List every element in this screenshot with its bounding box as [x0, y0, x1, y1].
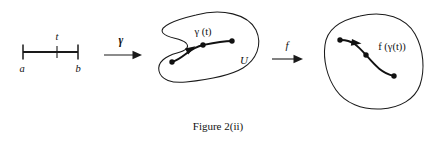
arrow-label-gamma: γ: [119, 34, 124, 47]
image-set-outline: [324, 14, 422, 109]
interval-label-t: t: [56, 31, 60, 42]
f-gamma-point-image: [363, 52, 368, 57]
arrow-head: [133, 51, 143, 60]
gamma-of-t-label: γ (t): [193, 26, 212, 38]
curve-with-arrow-icon-gamma: [169, 38, 234, 64]
f-of-gamma-of-t-label: f (γ(t)): [378, 41, 406, 53]
image-set-group: [324, 14, 422, 109]
arrow-right-icon-f: [272, 55, 303, 64]
set-label-U: U: [240, 54, 249, 66]
interval-group: [23, 45, 78, 60]
gamma-point-t: [200, 42, 205, 47]
f-gamma-point-start: [337, 37, 342, 42]
arrow-head: [294, 55, 304, 64]
arrow-label-f: f: [285, 39, 290, 51]
figure-container: a b t γ γ (t) U f: [0, 0, 437, 141]
arrow-right-icon-gamma: [104, 51, 142, 60]
figure-caption: Figure 2(ii): [193, 120, 244, 133]
f-gamma-point-end: [391, 73, 396, 78]
open-set-U-group: [159, 12, 259, 82]
gamma-point-end: [229, 38, 234, 43]
interval-label-b: b: [75, 63, 80, 74]
figure-diagram: a b t γ γ (t) U f: [0, 0, 437, 141]
gamma-point-start: [169, 59, 174, 64]
open-set-U-outline: [159, 12, 259, 82]
interval-label-a: a: [19, 63, 24, 74]
